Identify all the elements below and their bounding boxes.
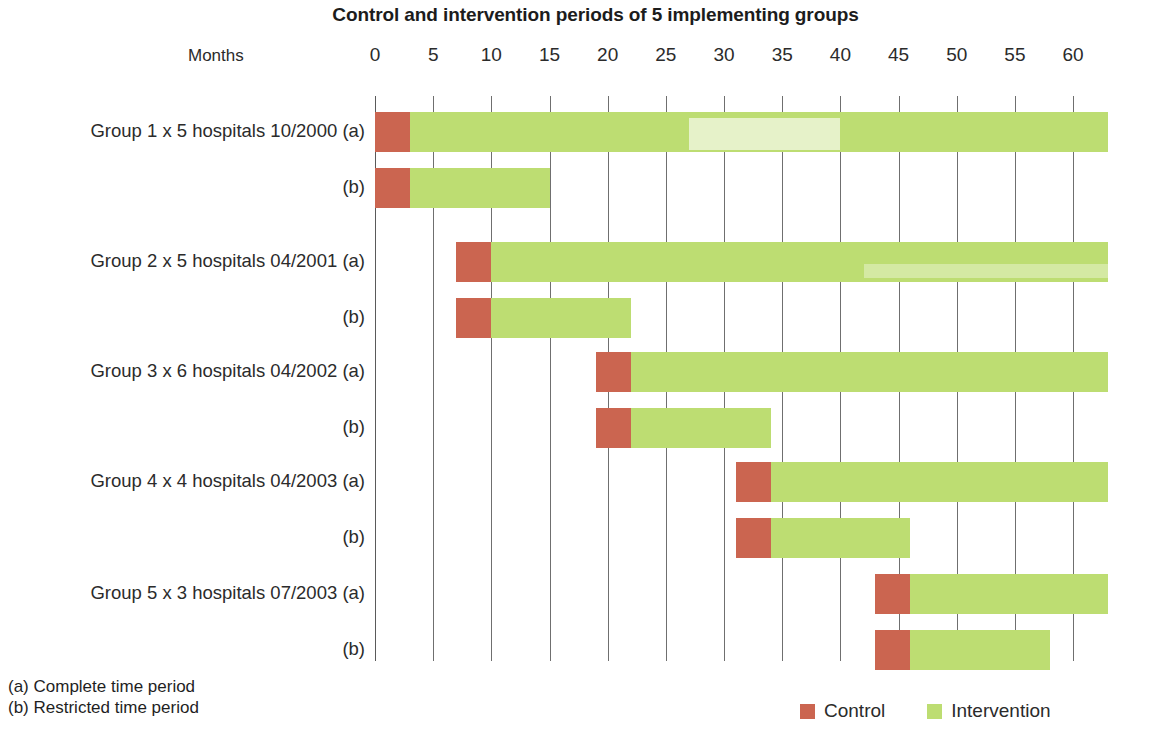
x-tick-label-50: 50 — [946, 44, 967, 66]
legend-swatch-icon — [800, 704, 815, 719]
bar-segment-intervention — [491, 298, 631, 338]
plot-area: 051015202530354045505560 — [375, 96, 1108, 661]
y-axis-label: Group 4 x 4 hospitals 04/2003 (a) — [8, 470, 365, 492]
y-axis-label: Group 5 x 3 hospitals 07/2003 (a) — [8, 582, 365, 604]
footnote-a: (a) Complete time period — [8, 676, 199, 697]
bar-segment-control — [456, 242, 491, 282]
footnote-b: (b) Restricted time period — [8, 697, 199, 718]
bar-segment-control — [596, 408, 631, 448]
footnotes: (a) Complete time period (b) Restricted … — [8, 676, 199, 718]
page-title: Control and intervention periods of 5 im… — [0, 4, 1153, 26]
bar-segment-intervention — [410, 112, 1108, 152]
bar-row — [375, 168, 1108, 208]
bar-row — [375, 518, 1108, 558]
y-axis-label: Group 2 x 5 hospitals 04/2001 (a) — [8, 250, 365, 272]
bar-segment-intervention — [410, 168, 550, 208]
bar-row — [375, 574, 1108, 614]
bar-row — [375, 408, 1108, 448]
legend-item: Control — [800, 700, 885, 722]
bar-segment-control — [875, 630, 910, 670]
bar-segment-control — [875, 574, 910, 614]
bar-segment-control — [375, 112, 410, 152]
y-axis-label: (b) — [8, 526, 365, 548]
bar-segment-intervention — [631, 352, 1108, 392]
y-axis-label: (b) — [8, 176, 365, 198]
x-tick-label-55: 55 — [1004, 44, 1025, 66]
legend-label: Intervention — [951, 700, 1050, 722]
bar-segment-intervention — [771, 462, 1108, 502]
bar-segment-control — [596, 352, 631, 392]
x-tick-label-15: 15 — [539, 44, 560, 66]
bar-segment-intervention — [771, 518, 911, 558]
bar-segment-intervention — [491, 242, 1108, 282]
x-tick-label-30: 30 — [713, 44, 734, 66]
bar-row — [375, 112, 1108, 152]
bar-segment-control — [375, 168, 410, 208]
bar-segment-intervention — [631, 408, 771, 448]
bar-row — [375, 242, 1108, 282]
y-axis-label: Group 1 x 5 hospitals 10/2000 (a) — [8, 120, 365, 142]
legend-swatch-icon — [927, 704, 942, 719]
bar-row — [375, 462, 1108, 502]
x-axis-caption: Months — [188, 46, 244, 66]
x-tick-label-25: 25 — [655, 44, 676, 66]
x-tick-label-5: 5 — [428, 44, 439, 66]
x-tick-label-40: 40 — [830, 44, 851, 66]
bar-segment-control — [456, 298, 491, 338]
x-tick-label-35: 35 — [772, 44, 793, 66]
y-axis-label: Group 3 x 6 hospitals 04/2002 (a) — [8, 360, 365, 382]
y-axis-label: (b) — [8, 306, 365, 328]
bar-segment-intervention — [910, 574, 1108, 614]
bar-segment-intervention — [910, 630, 1050, 670]
bar-segment-control — [736, 462, 771, 502]
x-tick-label-45: 45 — [888, 44, 909, 66]
legend: ControlIntervention — [800, 700, 1051, 722]
legend-item: Intervention — [927, 700, 1050, 722]
x-tick-label-10: 10 — [481, 44, 502, 66]
x-tick-label-0: 0 — [370, 44, 381, 66]
bar-row — [375, 630, 1108, 670]
y-axis-label: (b) — [8, 416, 365, 438]
x-tick-label-60: 60 — [1063, 44, 1084, 66]
x-tick-label-20: 20 — [597, 44, 618, 66]
legend-label: Control — [824, 700, 885, 722]
bar-row — [375, 298, 1108, 338]
bar-segment-control — [736, 518, 771, 558]
y-axis-label: (b) — [8, 638, 365, 660]
bar-row — [375, 352, 1108, 392]
